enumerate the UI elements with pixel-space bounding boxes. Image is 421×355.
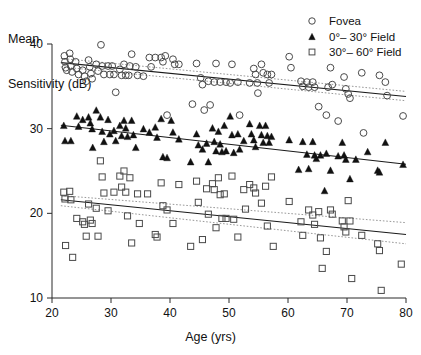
point-marker-square (67, 188, 73, 194)
point-marker-circle (309, 18, 315, 24)
x-tick-label: 60 (281, 306, 295, 320)
point-marker-circle (255, 90, 262, 97)
point-marker-square (211, 187, 217, 193)
point-marker-triangle (309, 33, 315, 39)
point-marker-circle (323, 112, 330, 119)
point-marker-triangle (240, 137, 247, 144)
legend: Fovea0°– 30° Field30°– 60° Field (309, 15, 402, 58)
point-marker-triangle (299, 138, 306, 145)
point-marker-square (74, 215, 80, 221)
point-marker-square (170, 220, 176, 226)
point-marker-square (398, 261, 404, 267)
x-tick-label: 20 (45, 306, 59, 320)
point-marker-circle (162, 52, 169, 59)
point-marker-square (327, 207, 333, 213)
point-marker-square (199, 237, 205, 243)
point-marker-circle (193, 60, 200, 67)
point-marker-square (268, 174, 274, 180)
x-tick-label: 40 (163, 306, 177, 320)
point-marker-triangle (209, 125, 216, 132)
point-marker-triangle (97, 113, 104, 120)
point-marker-circle (288, 64, 295, 71)
point-marker-square (345, 198, 351, 204)
point-marker-circle (360, 130, 367, 137)
point-marker-square (347, 218, 353, 224)
point-marker-circle (254, 80, 261, 87)
series-open-square (61, 158, 405, 294)
point-marker-circle (207, 102, 214, 109)
point-marker-triangle (118, 132, 125, 139)
point-marker-square (263, 183, 269, 189)
point-marker-circle (315, 103, 322, 110)
point-marker-square (158, 180, 164, 186)
point-marker-square (195, 199, 201, 205)
point-marker-circle (327, 64, 334, 71)
point-marker-triangle (266, 139, 273, 146)
point-marker-triangle (295, 166, 302, 173)
x-tick-label: 80 (399, 306, 413, 320)
point-marker-circle (112, 89, 119, 96)
point-marker-triangle (236, 146, 243, 153)
point-marker-triangle (62, 137, 69, 144)
point-marker-triangle (170, 129, 177, 136)
point-marker-triangle (309, 138, 316, 145)
point-marker-square (63, 242, 69, 248)
point-marker-square (376, 248, 382, 254)
regression-line (61, 200, 406, 235)
point-marker-circle (286, 53, 293, 60)
point-marker-triangle (193, 130, 200, 137)
y-tick-label: 30 (30, 122, 44, 136)
point-marker-square (311, 221, 317, 227)
point-marker-square (316, 209, 322, 215)
point-marker-triangle (195, 141, 202, 148)
point-marker-triangle (187, 158, 194, 165)
confidence-band-line (61, 58, 406, 91)
series-filled-triangle (60, 107, 406, 194)
point-marker-square (213, 225, 219, 231)
point-marker-square (95, 233, 101, 239)
point-marker-triangle (205, 158, 212, 165)
point-marker-circle (236, 112, 243, 119)
point-marker-square (154, 234, 160, 240)
y-tick-label: 40 (30, 37, 44, 51)
point-marker-triangle (339, 139, 346, 146)
point-marker-square (127, 175, 133, 181)
point-marker-triangle (323, 150, 330, 157)
point-marker-triangle (305, 165, 312, 172)
point-marker-circle (268, 71, 275, 78)
point-marker-triangle (260, 139, 267, 146)
point-marker-triangle (327, 167, 334, 174)
point-marker-square (62, 196, 68, 202)
legend-label: 30°– 60° Field (329, 46, 402, 58)
point-marker-circle (246, 80, 253, 87)
point-marker-square (319, 265, 325, 271)
point-marker-triangle (85, 113, 92, 120)
point-marker-square (93, 205, 99, 211)
y-tick-label: 10 (30, 291, 44, 305)
point-marker-triangle (234, 130, 241, 137)
point-marker-square (359, 232, 365, 238)
point-marker-square (83, 233, 89, 239)
point-marker-triangle (213, 147, 220, 154)
point-marker-triangle (364, 148, 371, 155)
point-marker-square (70, 254, 76, 260)
point-marker-triangle (89, 144, 96, 151)
point-marker-square (188, 243, 194, 249)
point-marker-triangle (211, 138, 218, 145)
point-marker-circle (164, 112, 171, 119)
point-marker-triangle (112, 137, 119, 144)
point-marker-square (193, 178, 199, 184)
point-marker-square (80, 219, 86, 225)
point-marker-triangle (67, 137, 74, 144)
x-axis-title: Age (yrs) (0, 330, 421, 344)
point-marker-square (339, 218, 345, 224)
point-marker-circle (376, 72, 383, 79)
point-marker-triangle (93, 107, 100, 114)
point-marker-square (349, 275, 355, 281)
point-marker-square (81, 221, 87, 227)
point-marker-circle (400, 113, 407, 120)
point-marker-square (242, 206, 248, 212)
point-marker-square (61, 189, 67, 195)
x-tick-label: 70 (340, 306, 354, 320)
point-marker-square (241, 187, 247, 193)
